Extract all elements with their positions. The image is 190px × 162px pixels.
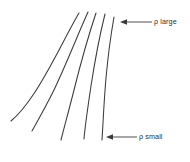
curve-group: [11, 12, 114, 140]
curve-5: [102, 17, 114, 140]
leader-bottom-group: [106, 134, 137, 140]
curve-1: [11, 13, 79, 121]
curve-3: [61, 13, 96, 140]
curve-2: [32, 12, 88, 131]
diagram-canvas: ρ large ρ small: [0, 0, 190, 162]
label-rho-large: ρ large: [154, 17, 177, 26]
arrow-head-bottom: [106, 134, 113, 140]
curve-4: [84, 14, 105, 139]
label-rho-small: ρ small: [139, 132, 163, 141]
leader-top-group: [120, 19, 152, 25]
arrow-head-top: [120, 19, 127, 25]
